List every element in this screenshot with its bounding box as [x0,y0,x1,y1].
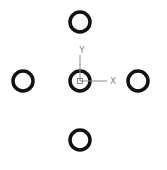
circle-right [128,71,148,91]
circle-pattern-diagram: Y X [0,0,167,170]
ucs-icon: Y X [78,45,117,86]
y-axis-label: Y [78,45,85,55]
circle-bottom [70,130,90,150]
circle-left [13,71,33,91]
x-axis-label: X [110,76,116,86]
circle-top [70,12,90,32]
